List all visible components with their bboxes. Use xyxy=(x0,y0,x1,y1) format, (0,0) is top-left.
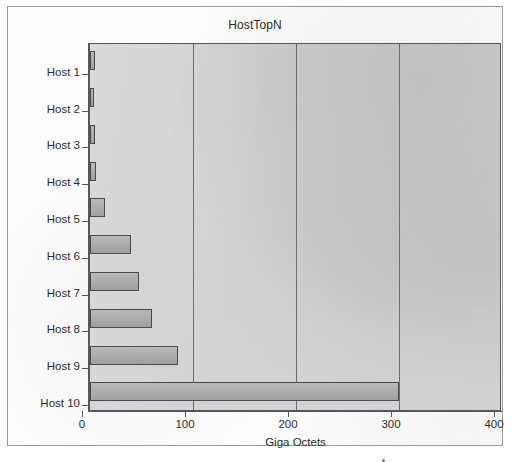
gridline-x-200 xyxy=(296,44,297,410)
x-axis-line xyxy=(89,411,502,412)
bar-sheen xyxy=(91,126,94,143)
x-tick-label-0: 0 xyxy=(52,418,112,430)
gridline-x-100 xyxy=(193,44,194,410)
x-tick-200 xyxy=(288,411,289,417)
y-tick-9 xyxy=(82,368,89,369)
y-tick-label-host-7: Host 7 xyxy=(8,287,80,299)
x-tick-100 xyxy=(185,411,186,417)
bar-sheen xyxy=(91,236,130,253)
x-axis-title: Giga Octets xyxy=(89,436,502,448)
y-tick-label-host-6: Host 6 xyxy=(8,250,80,262)
bar-sheen xyxy=(91,310,151,327)
y-tick-6 xyxy=(82,258,89,259)
y-tick-2 xyxy=(82,111,89,112)
bar-host-2 xyxy=(90,88,94,107)
bar-sheen xyxy=(91,273,138,290)
bar-host-8 xyxy=(90,309,152,328)
y-axis-line xyxy=(88,43,89,412)
y-tick-7 xyxy=(82,295,89,296)
bar-sheen xyxy=(91,383,398,400)
bar-host-1 xyxy=(90,51,95,70)
y-tick-1 xyxy=(82,74,89,75)
y-tick-label-host-3: Host 3 xyxy=(8,139,80,151)
y-tick-4 xyxy=(82,184,89,185)
y-tick-label-host-1: Host 1 xyxy=(8,66,80,78)
bar-sheen xyxy=(91,89,93,106)
x-tick-label-400: 400 xyxy=(464,418,516,430)
bar-host-10 xyxy=(90,382,399,401)
y-tick-8 xyxy=(82,331,89,332)
bar-sheen xyxy=(91,347,177,364)
y-tick-label-host-9: Host 9 xyxy=(8,360,80,372)
chart-title: HostTopN xyxy=(8,18,502,32)
y-tick-label-host-4: Host 4 xyxy=(8,176,80,188)
bar-sheen xyxy=(91,163,95,180)
x-tick-400 xyxy=(494,411,495,417)
bar-sheen xyxy=(91,199,104,216)
y-tick-label-host-2: Host 2 xyxy=(8,103,80,115)
bar-host-7 xyxy=(90,272,139,291)
x-tick-300 xyxy=(391,411,392,417)
bar-host-5 xyxy=(90,198,105,217)
x-tick-label-200: 200 xyxy=(258,418,318,430)
x-tick-label-100: 100 xyxy=(155,418,215,430)
bar-host-6 xyxy=(90,235,131,254)
bar-host-3 xyxy=(90,125,95,144)
bar-host-9 xyxy=(90,346,178,365)
y-tick-label-host-10: Host 10 xyxy=(8,397,80,409)
x-tick-label-300: 300 xyxy=(361,418,421,430)
gridline-x-300 xyxy=(399,44,400,410)
y-tick-5 xyxy=(82,221,89,222)
y-tick-10 xyxy=(82,405,89,406)
bar-sheen xyxy=(91,52,94,69)
scanned-page-frame: HostTopN Host 1Host 2Host 3Host 4Host 5H… xyxy=(7,6,503,446)
bar-host-4 xyxy=(90,162,96,181)
y-tick-label-host-8: Host 8 xyxy=(8,323,80,335)
plot-area xyxy=(89,43,501,411)
x-tick-0 xyxy=(82,411,83,417)
y-tick-label-host-5: Host 5 xyxy=(8,213,80,225)
y-tick-3 xyxy=(82,147,89,148)
